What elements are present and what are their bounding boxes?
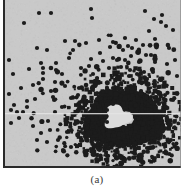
figure-panel: (a)	[0, 0, 194, 190]
scatter-plot-axes	[3, 0, 181, 168]
scatter-plot-canvas	[3, 0, 181, 168]
figure-caption: (a)	[0, 172, 194, 186]
